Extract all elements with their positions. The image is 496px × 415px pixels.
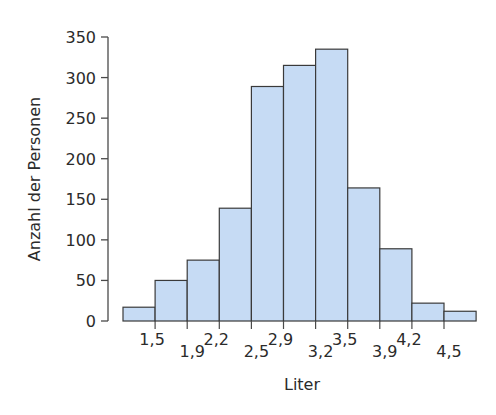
x-tick-label: 4,5 <box>436 342 461 361</box>
histogram-bar <box>348 188 380 321</box>
y-tick-label: 200 <box>65 150 96 169</box>
histogram-chart: 050100150200250300350 1,51,92,22,52,93,2… <box>0 0 496 415</box>
x-tick-label: 1,9 <box>179 342 204 361</box>
histogram-bar <box>380 249 412 321</box>
x-tick-label: 3,9 <box>372 342 397 361</box>
y-tick-label: 350 <box>65 28 96 47</box>
x-tick-label: 2,5 <box>244 342 269 361</box>
x-axis: 1,51,92,22,52,93,23,53,94,24,5 <box>139 321 461 361</box>
x-tick-label: 4,2 <box>396 330 421 349</box>
y-tick-label: 0 <box>86 312 96 331</box>
y-tick-label: 250 <box>65 109 96 128</box>
y-tick-label: 50 <box>76 271 96 290</box>
histogram-bar <box>155 280 187 321</box>
histogram-bar <box>251 86 283 321</box>
histogram-bar <box>284 65 316 321</box>
histogram-bar <box>316 49 348 321</box>
histogram-bar <box>444 311 476 321</box>
histogram-bar <box>123 307 155 321</box>
histogram-bar <box>412 303 444 321</box>
y-tick-label: 300 <box>65 69 96 88</box>
y-tick-label: 100 <box>65 231 96 250</box>
histogram-bar <box>219 208 251 321</box>
y-axis: 050100150200250300350 <box>65 28 108 331</box>
x-tick-label: 3,5 <box>332 330 357 349</box>
x-tick-label: 2,9 <box>268 330 293 349</box>
x-axis-title: Liter <box>284 375 320 394</box>
x-tick-label: 2,2 <box>204 330 229 349</box>
x-tick-label: 1,5 <box>139 330 164 349</box>
histogram-bars <box>123 49 476 321</box>
y-tick-label: 150 <box>65 190 96 209</box>
y-axis-title: Anzahl der Personen <box>25 97 44 261</box>
x-tick-label: 3,2 <box>308 342 333 361</box>
histogram-bar <box>187 260 219 321</box>
